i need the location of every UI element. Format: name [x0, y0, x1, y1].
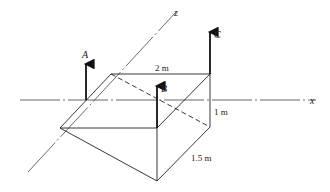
label-x-axis: x: [309, 95, 315, 106]
label-c: C: [214, 29, 221, 40]
label-b: B: [161, 83, 167, 94]
dimension-depth: 1.5 m: [191, 153, 212, 163]
z-axis: [28, 12, 176, 172]
label-a: A: [81, 49, 89, 60]
diagram-canvas: A B C z x 2 m 1 m 1.5 m: [0, 0, 330, 192]
dimension-width: 2 m: [155, 63, 169, 73]
triangular-prism: [60, 74, 210, 181]
dimension-height: 1 m: [214, 107, 228, 117]
label-z-axis: z: [173, 7, 178, 18]
